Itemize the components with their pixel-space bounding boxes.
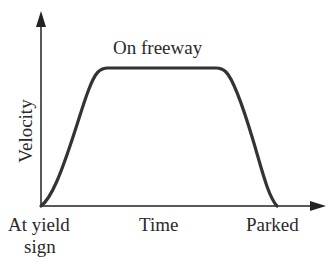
y-axis-label: Velocity xyxy=(15,91,37,171)
x-axis-arrow-icon xyxy=(310,201,326,211)
y-axis-arrow-icon xyxy=(36,11,46,27)
velocity-curve xyxy=(41,68,277,206)
x-tick-start-line2: sign xyxy=(24,236,56,258)
x-tick-end: Parked xyxy=(246,214,299,236)
x-axis-label: Time xyxy=(139,214,178,236)
x-tick-start-line1: At yield xyxy=(8,214,70,236)
plateau-annotation: On freeway xyxy=(113,37,202,59)
